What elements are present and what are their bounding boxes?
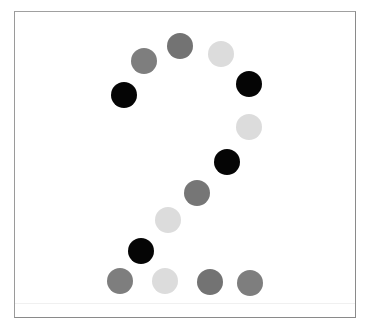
dot-12 [152, 268, 178, 294]
dot-8 [184, 180, 210, 206]
dot-13 [197, 269, 223, 295]
dot-5 [236, 71, 262, 97]
dot-10 [128, 238, 154, 264]
dot-3 [208, 41, 234, 67]
dot-7 [214, 149, 240, 175]
dot-11 [107, 268, 133, 294]
dot-4 [111, 82, 137, 108]
dot-1 [167, 33, 193, 59]
dot-14 [237, 270, 263, 296]
faint-divider [15, 303, 355, 304]
dot-2 [131, 48, 157, 74]
dot-9 [155, 207, 181, 233]
dot-6 [236, 114, 262, 140]
depicted-digit: 2 [0, 0, 1, 1]
